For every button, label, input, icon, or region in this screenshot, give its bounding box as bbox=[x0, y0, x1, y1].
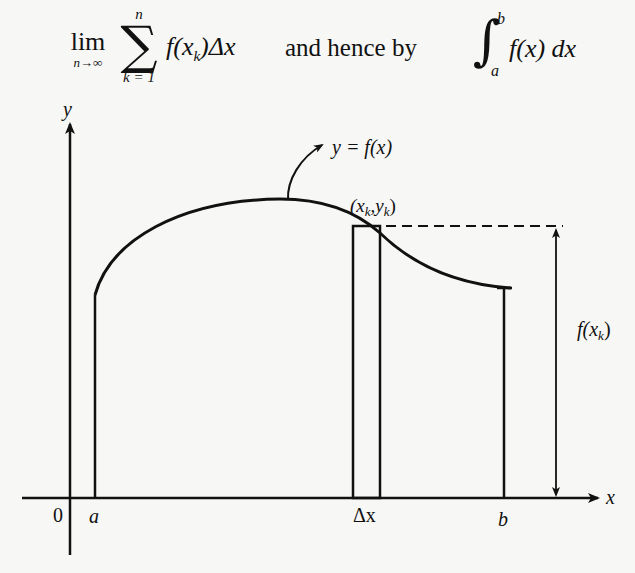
point-label: (xk,yk) bbox=[350, 195, 396, 217]
height-label-sub: k bbox=[598, 328, 604, 343]
riemann-sum-diagram bbox=[0, 0, 635, 573]
point-label-sub2: k bbox=[384, 204, 390, 219]
a-label: a bbox=[89, 505, 99, 528]
height-label-close: ) bbox=[604, 318, 611, 340]
point-label-open: (x bbox=[350, 195, 365, 216]
point-label-close: ) bbox=[390, 195, 396, 216]
y-axis-label: y bbox=[63, 98, 72, 121]
delta-x-label: Δx bbox=[353, 504, 376, 527]
point-label-mid: ,y bbox=[371, 195, 384, 216]
origin-label: 0 bbox=[53, 504, 63, 527]
b-label: b bbox=[498, 508, 508, 531]
riemann-rectangle bbox=[353, 226, 380, 498]
delta-x-text: Δx bbox=[353, 504, 376, 526]
textbook-page: lim n→∞ n ∑ k = 1 f(xk)Δx and hence by ∫… bbox=[0, 0, 635, 573]
x-axis-label: x bbox=[606, 486, 615, 509]
curve-f bbox=[95, 199, 511, 295]
height-label-f: f(x bbox=[577, 318, 598, 340]
point-label-sub1: k bbox=[365, 204, 371, 219]
curve-label: y = f(x) bbox=[332, 136, 392, 159]
curve-label-pointer-arrow bbox=[288, 145, 322, 200]
height-label: f(xk) bbox=[577, 318, 611, 341]
